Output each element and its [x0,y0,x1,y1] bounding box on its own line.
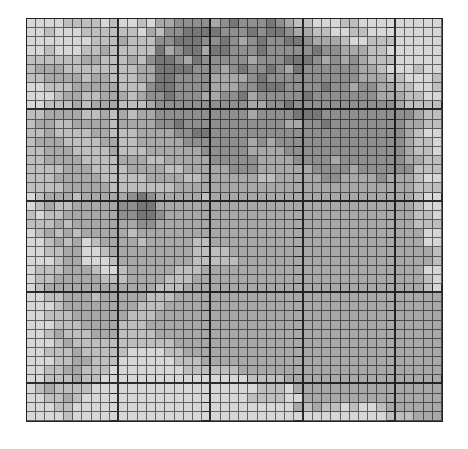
mosaic-cell [294,339,303,348]
mosaic-cell [350,183,359,192]
mosaic-cell [368,37,377,46]
mosaic-cell [294,257,303,266]
mosaic-cell [396,375,405,384]
mosaic-cell [45,339,54,348]
mosaic-cell [82,229,91,238]
mosaic-cell [221,220,230,229]
mosaic-cell [138,321,147,330]
mosaic-cell [193,101,202,110]
mosaic-cell [294,101,303,110]
mosaic-cell [221,138,230,147]
mosaic-cell [27,28,36,37]
mosaic-cell [165,321,174,330]
mosaic-cell [82,202,91,211]
mosaic-cell [119,165,128,174]
mosaic-cell [248,284,257,293]
mosaic-cell [64,120,73,129]
mosaic-cell [119,403,128,412]
mosaic-cell [45,220,54,229]
mosaic-cell [424,120,433,129]
mosaic-cell [433,412,442,421]
mosaic-cell [331,46,340,55]
mosaic-cell [202,83,211,92]
mosaic-cell [82,357,91,366]
mosaic-cell [119,293,128,302]
mosaic-cell [175,403,184,412]
mosaic-cell [92,183,101,192]
mosaic-cell [276,403,285,412]
mosaic-cell [304,174,313,183]
mosaic-cell [359,28,368,37]
mosaic-cell [193,238,202,247]
mosaic-cell [73,183,82,192]
mosaic-cell [101,138,110,147]
mosaic-cell [433,384,442,393]
mosaic-cell [45,120,54,129]
mosaic-cell [92,311,101,320]
mosaic-cell [414,293,423,302]
mosaic-cell [405,412,414,421]
mosaic-cell [368,284,377,293]
mosaic-cell [304,147,313,156]
mosaic-cell [64,165,73,174]
mosaic-cell [202,229,211,238]
mosaic-cell [119,220,128,229]
mosaic-cell [359,19,368,28]
mosaic-cell [396,311,405,320]
mosaic-cell [202,92,211,101]
mosaic-cell [36,229,45,238]
mosaic-cell [73,257,82,266]
mosaic-cell [387,56,396,65]
mosaic-cell [304,120,313,129]
mosaic-cell [175,275,184,284]
mosaic-cell [368,275,377,284]
mosaic-cell [377,183,386,192]
mosaic-cell [230,147,239,156]
mosaic-cell [294,37,303,46]
mosaic-cell [377,247,386,256]
mosaic-cell [248,348,257,357]
mosaic-cell [387,247,396,256]
mosaic-cell [147,46,156,55]
mosaic-cell [193,120,202,129]
mosaic-cell [433,101,442,110]
mosaic-cell [368,339,377,348]
mosaic-cell [350,375,359,384]
mosaic-cell [119,257,128,266]
mosaic-cell [359,293,368,302]
mosaic-cell [285,74,294,83]
mosaic-cell [414,65,423,74]
mosaic-cell [119,129,128,138]
mosaic-cell [387,147,396,156]
mosaic-cell [248,293,257,302]
mosaic-cell [211,238,220,247]
mosaic-cell [258,165,267,174]
mosaic-cell [322,46,331,55]
mosaic-cell [27,83,36,92]
mosaic-cell [128,330,137,339]
mosaic-cell [239,193,248,202]
mosaic-cell [239,92,248,101]
mosaic-cell [101,247,110,256]
mosaic-cell [248,275,257,284]
mosaic-cell [128,247,137,256]
mosaic-cell [267,311,276,320]
mosaic-cell [248,46,257,55]
mosaic-cell [387,321,396,330]
mosaic-cell [82,174,91,183]
mosaic-cell [350,339,359,348]
mosaic-cell [138,156,147,165]
mosaic-cell [128,275,137,284]
mosaic-cell [45,321,54,330]
mosaic-cell [119,339,128,348]
mosaic-cell [377,266,386,275]
mosaic-cell [64,348,73,357]
mosaic-cell [239,394,248,403]
mosaic-cell [359,120,368,129]
mosaic-cell [294,394,303,403]
mosaic-cell [405,28,414,37]
mosaic-cell [55,284,64,293]
mosaic-cell [359,366,368,375]
mosaic-cell [433,357,442,366]
mosaic-cell [156,321,165,330]
